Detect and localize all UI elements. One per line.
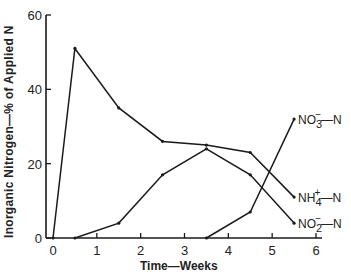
x-tick-label: 3 bbox=[181, 243, 188, 258]
x-tick-label: 4 bbox=[225, 243, 232, 258]
series-line-0 bbox=[53, 49, 294, 239]
data-point bbox=[205, 147, 208, 150]
data-point bbox=[292, 196, 295, 199]
y-tick-label: 0 bbox=[35, 231, 42, 246]
data-point bbox=[117, 222, 120, 225]
data-point bbox=[249, 173, 252, 176]
data-point bbox=[292, 222, 295, 225]
line-chart: 02040600123456 NH4+—NNO2−—NNO3−—N bbox=[0, 0, 351, 279]
x-axis-label: Time—Weeks bbox=[140, 259, 218, 273]
data-point bbox=[249, 210, 252, 213]
data-lines bbox=[51, 47, 295, 240]
data-point bbox=[161, 173, 164, 176]
x-tick-label: 6 bbox=[312, 243, 319, 258]
y-tick-label: 20 bbox=[28, 157, 42, 172]
series-line-1 bbox=[75, 149, 294, 238]
data-point bbox=[249, 151, 252, 154]
y-tick-label: 40 bbox=[28, 82, 42, 97]
x-tick-label: 0 bbox=[49, 243, 56, 258]
axes: 02040600123456 bbox=[28, 8, 322, 258]
data-point bbox=[205, 236, 208, 239]
data-point bbox=[73, 47, 76, 50]
x-tick-label: 1 bbox=[93, 243, 100, 258]
y-tick-label: 60 bbox=[28, 8, 42, 23]
series-label-1: NO2−—N bbox=[298, 213, 342, 234]
data-point bbox=[117, 106, 120, 109]
data-point bbox=[205, 143, 208, 146]
series-label-2: NO3−—N bbox=[298, 109, 342, 130]
y-axis-label: Inorganic Nitrogen—% of Applied N bbox=[2, 8, 16, 238]
series-line-2 bbox=[206, 119, 294, 238]
series-labels: NH4+—NNO2−—NNO3−—N bbox=[298, 109, 342, 234]
data-point bbox=[292, 117, 295, 120]
data-point bbox=[73, 236, 76, 239]
series-label-0: NH4+—N bbox=[298, 187, 341, 208]
data-point bbox=[161, 140, 164, 143]
x-tick-label: 5 bbox=[269, 243, 276, 258]
data-point bbox=[51, 236, 54, 239]
x-tick-label: 2 bbox=[137, 243, 144, 258]
